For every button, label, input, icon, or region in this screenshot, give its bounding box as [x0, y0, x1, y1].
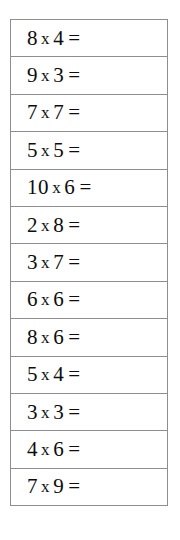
- right-operand: 8: [53, 213, 64, 237]
- table-row: 4x6=: [11, 431, 168, 468]
- problem-cell[interactable]: 7x7=: [11, 94, 168, 131]
- multiplication-operator: x: [38, 66, 53, 85]
- right-operand: 6: [64, 175, 75, 199]
- table-row: 5x4=: [11, 356, 168, 393]
- multiplication-problem-table: 8x4=9x3=7x7=5x5=10x6=2x8=3x7=6x6=8x6=5x4…: [10, 19, 168, 506]
- table-row: 7x9=: [11, 468, 168, 505]
- problem-cell[interactable]: 10x6=: [11, 169, 168, 206]
- problem-cell[interactable]: 5x5=: [11, 132, 168, 169]
- problem-cell[interactable]: 6x6=: [11, 281, 168, 318]
- table-row: 6x6=: [11, 281, 168, 318]
- problem-cell[interactable]: 8x6=: [11, 319, 168, 356]
- multiplication-operator: x: [38, 365, 53, 384]
- left-operand: 3: [27, 250, 38, 274]
- problem-cell[interactable]: 2x8=: [11, 206, 168, 243]
- right-operand: 3: [53, 63, 64, 87]
- table-row: 10x6=: [11, 169, 168, 206]
- equals-sign: =: [64, 437, 80, 461]
- equals-sign: =: [64, 100, 80, 124]
- left-operand: 8: [27, 26, 38, 50]
- equals-sign: =: [64, 474, 80, 498]
- table-row: 8x4=: [11, 20, 168, 57]
- problem-cell[interactable]: 9x3=: [11, 57, 168, 94]
- problem-cell[interactable]: 4x6=: [11, 431, 168, 468]
- equals-sign: =: [64, 287, 80, 311]
- right-operand: 5: [53, 138, 64, 162]
- left-operand: 10: [27, 175, 49, 199]
- left-operand: 4: [27, 437, 38, 461]
- right-operand: 4: [53, 362, 64, 386]
- table-row: 5x5=: [11, 132, 168, 169]
- multiplication-operator: x: [38, 403, 53, 422]
- table-row: 3x3=: [11, 393, 168, 430]
- equals-sign: =: [64, 400, 80, 424]
- right-operand: 4: [53, 26, 64, 50]
- multiplication-operator: x: [38, 440, 53, 459]
- right-operand: 6: [53, 437, 64, 461]
- left-operand: 6: [27, 287, 38, 311]
- left-operand: 2: [27, 213, 38, 237]
- right-operand: 6: [53, 325, 64, 349]
- right-operand: 3: [53, 400, 64, 424]
- table-row: 2x8=: [11, 206, 168, 243]
- equals-sign: =: [64, 325, 80, 349]
- table-row: 7x7=: [11, 94, 168, 131]
- problem-cell[interactable]: 3x7=: [11, 244, 168, 281]
- equals-sign: =: [64, 213, 80, 237]
- multiplication-operator: x: [38, 253, 53, 272]
- equals-sign: =: [64, 250, 80, 274]
- problem-cell[interactable]: 7x9=: [11, 468, 168, 505]
- left-operand: 9: [27, 63, 38, 87]
- equals-sign: =: [64, 138, 80, 162]
- multiplication-operator: x: [38, 141, 53, 160]
- left-operand: 3: [27, 400, 38, 424]
- equals-sign: =: [75, 175, 91, 199]
- equals-sign: =: [64, 362, 80, 386]
- equals-sign: =: [64, 63, 80, 87]
- multiplication-operator: x: [49, 178, 64, 197]
- multiplication-operator: x: [38, 290, 53, 309]
- table-row: 9x3=: [11, 57, 168, 94]
- multiplication-operator: x: [38, 216, 53, 235]
- right-operand: 7: [53, 250, 64, 274]
- multiplication-operator: x: [38, 477, 53, 496]
- right-operand: 7: [53, 100, 64, 124]
- multiplication-operator: x: [38, 29, 53, 48]
- left-operand: 7: [27, 100, 38, 124]
- problem-cell[interactable]: 8x4=: [11, 20, 168, 57]
- multiplication-operator: x: [38, 103, 53, 122]
- problem-cell[interactable]: 3x3=: [11, 393, 168, 430]
- left-operand: 8: [27, 325, 38, 349]
- right-operand: 9: [53, 474, 64, 498]
- left-operand: 5: [27, 362, 38, 386]
- equals-sign: =: [64, 26, 80, 50]
- left-operand: 5: [27, 138, 38, 162]
- table-row: 8x6=: [11, 319, 168, 356]
- problem-table-body: 8x4=9x3=7x7=5x5=10x6=2x8=3x7=6x6=8x6=5x4…: [11, 20, 168, 506]
- table-row: 3x7=: [11, 244, 168, 281]
- multiplication-operator: x: [38, 328, 53, 347]
- worksheet-page: 8x4=9x3=7x7=5x5=10x6=2x8=3x7=6x6=8x6=5x4…: [0, 0, 180, 540]
- problem-cell[interactable]: 5x4=: [11, 356, 168, 393]
- left-operand: 7: [27, 474, 38, 498]
- right-operand: 6: [53, 287, 64, 311]
